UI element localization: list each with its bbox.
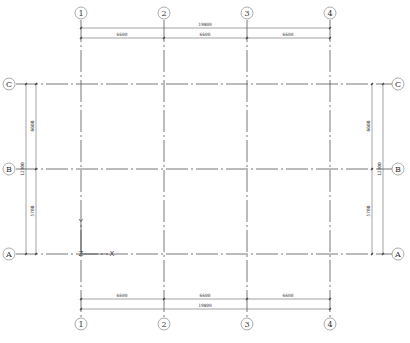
axis-bubble-c-right: C	[395, 80, 401, 89]
right-total-dimension: 12300	[377, 162, 382, 176]
axis-bubble-2-bottom: 2	[161, 320, 166, 329]
bottom-span-1-2: 6600	[117, 293, 128, 298]
ucs-z-label: Z	[79, 250, 84, 258]
top-span-3-4: 6600	[283, 32, 294, 37]
top-axis-bubbles: 1 2 3 4	[75, 7, 336, 19]
top-span-2-3: 6600	[200, 32, 211, 37]
axis-bubble-b-right: B	[395, 165, 401, 174]
top-span-1-2: 6600	[117, 32, 128, 37]
left-span-c-b: 6600	[30, 120, 35, 131]
right-span-c-b: 6600	[366, 120, 371, 131]
axis-bubble-3-bottom: 3	[244, 320, 249, 329]
axis-bubble-2-top: 2	[161, 9, 166, 18]
top-total-dimension: 19800	[198, 22, 212, 27]
right-axis-bubbles: C B A	[392, 78, 404, 260]
top-dimension-chain: 19800 6600 6600 6600	[80, 22, 331, 39]
horizontal-grid-lines	[16, 84, 392, 254]
axis-bubble-a-right: A	[394, 250, 401, 259]
left-span-b-a: 5700	[30, 205, 35, 216]
axis-bubble-1-top: 1	[78, 9, 83, 18]
left-total-dimension: 12300	[20, 162, 25, 176]
right-dimension-chain: 6600 5700 12300	[366, 83, 384, 255]
axis-bubble-4-top: 4	[327, 9, 332, 18]
bottom-axis-bubbles: 1 2 3 4	[75, 318, 336, 330]
axis-bubble-b-left: B	[6, 165, 12, 174]
axis-bubble-1-bottom: 1	[78, 320, 83, 329]
axis-bubble-c-left: C	[6, 80, 12, 89]
ucs-x-label: X	[110, 250, 115, 258]
ucs-icon: Y X Z	[78, 218, 115, 258]
right-span-b-a: 5700	[366, 205, 371, 216]
ucs-y-label: Y	[78, 218, 84, 226]
axis-bubble-4-bottom: 4	[327, 320, 332, 329]
axis-bubble-3-top: 3	[244, 9, 249, 18]
bottom-span-2-3: 6600	[200, 293, 211, 298]
bottom-span-3-4: 6600	[283, 293, 294, 298]
bottom-dimension-chain: 6600 6600 6600 19800	[80, 293, 331, 310]
left-axis-bubbles: C B A	[3, 78, 15, 260]
axis-grid-drawing: 19800 6600 6600 6600 6600 6600 6600 1980…	[0, 0, 410, 343]
bottom-total-dimension: 19800	[198, 303, 212, 308]
axis-bubble-a-left: A	[5, 250, 12, 259]
